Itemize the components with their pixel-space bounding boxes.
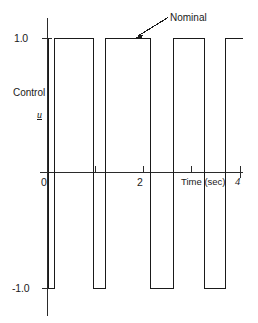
nominal-annotation-label: Nominal xyxy=(170,13,207,23)
y-tick-label-top: 1.0 xyxy=(14,33,28,44)
chart-plot-area xyxy=(0,0,258,323)
x-tick-label-2: 2 xyxy=(137,177,143,188)
x-tick-label-0: 0 xyxy=(41,177,47,188)
y-axis-variable-symbol: u xyxy=(37,110,42,120)
control-signal-trace xyxy=(48,39,244,289)
y-tick-label-bottom: -1.0 xyxy=(12,283,29,294)
x-tick-label-4: 4 xyxy=(235,177,240,188)
x-axis-title: Time (sec) xyxy=(181,177,226,187)
nominal-arrow-shaft xyxy=(138,18,168,37)
y-axis-title: Control xyxy=(13,88,45,98)
figure-control-vs-time: 1.0 -1.0 0 2 4 Time (sec) Control u Nomi… xyxy=(0,0,258,323)
